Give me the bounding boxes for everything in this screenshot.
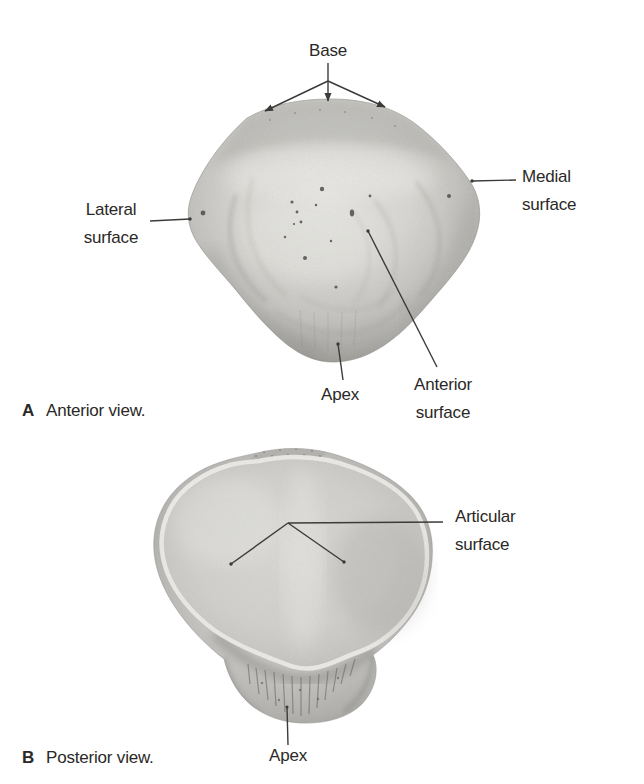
caption-b-letter: B [22,748,34,767]
label-articular-surface: Articular surface [455,503,516,559]
figure-patella: Base Lateral surface Medial surface Apex… [0,0,644,784]
caption-b-text: Posterior view. [46,748,154,767]
leader-lateral-surface [150,219,190,221]
caption-a-letter: A [22,401,34,420]
leader-apex-b [287,707,288,745]
label-lateral-surface: Lateral surface [84,196,138,252]
label-anterior-surface: Anterior surface [414,371,472,427]
label-medial-surface: Medial surface [522,163,576,219]
leader-medial-surface [472,180,516,181]
patella-posterior-bone [145,440,445,735]
caption-a-text: Anterior view. [46,401,145,420]
label-apex-posterior-view: Apex [269,746,307,766]
patella-anterior-bone [180,90,490,375]
label-apex-anterior-view: Apex [321,385,359,405]
caption-panel-b: BPosterior view. [22,748,154,768]
label-base: Base [309,41,347,61]
caption-panel-a: AAnterior view. [22,401,145,421]
